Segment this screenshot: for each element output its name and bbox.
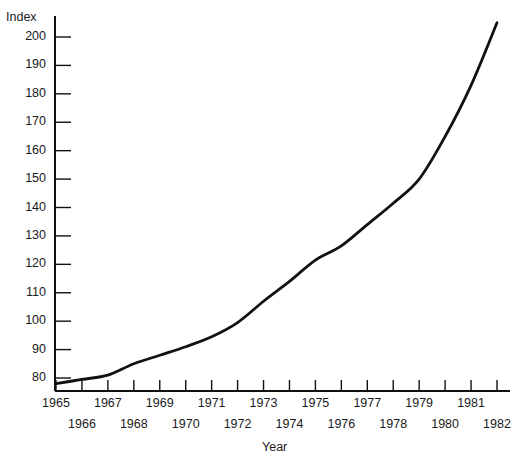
x-axis-title: Year [262,440,287,454]
x-tick-label: 1974 [267,417,311,431]
x-tick-label: 1978 [371,417,415,431]
y-tick-label: 200 [2,29,46,43]
y-tick-label: 90 [2,342,46,356]
x-tick-label: 1968 [112,417,156,431]
x-tick-label: 1965 [34,396,78,410]
y-tick-label: 80 [2,370,46,384]
y-tick-label: 150 [2,171,46,185]
y-axis-ticks [55,37,71,378]
y-tick-label: 170 [2,114,46,128]
x-tick-label: 1970 [164,417,208,431]
x-tick-label: 1975 [293,396,337,410]
chart-plot-area [0,0,531,462]
x-tick-label: 1977 [345,396,389,410]
x-axis-ticks [56,380,497,391]
line-chart: Index Year 80901001101201301401501601701… [0,0,531,462]
y-axis-title: Index [6,10,37,24]
x-tick-label: 1982 [475,417,519,431]
y-tick-label: 180 [2,86,46,100]
x-tick-label: 1973 [242,396,286,410]
axis-lines [55,16,510,391]
y-tick-label: 140 [2,200,46,214]
x-tick-label: 1969 [138,396,182,410]
y-tick-label: 160 [2,143,46,157]
x-tick-label: 1979 [397,396,441,410]
x-tick-label: 1976 [319,417,363,431]
x-tick-label: 1981 [449,396,493,410]
y-tick-label: 130 [2,228,46,242]
x-tick-label: 1971 [190,396,234,410]
x-tick-label: 1980 [423,417,467,431]
x-tick-label: 1972 [216,417,260,431]
y-tick-label: 110 [2,285,46,299]
x-tick-label: 1967 [86,396,130,410]
y-tick-label: 100 [2,313,46,327]
y-tick-label: 120 [2,256,46,270]
x-tick-label: 1966 [60,417,104,431]
y-tick-label: 190 [2,57,46,71]
data-series-line [56,23,497,384]
